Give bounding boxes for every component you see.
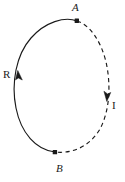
label-point-b: B <box>56 163 63 174</box>
irreversible-path-dashed-arc <box>55 21 109 152</box>
cycle-diagram-svg <box>0 0 125 182</box>
point-marker-b <box>53 150 57 154</box>
point-marker-a <box>75 19 79 23</box>
cycle-diagram-figure: A B R I <box>0 0 125 182</box>
label-point-a: A <box>72 2 79 13</box>
irreversible-path-arrowhead <box>103 91 111 101</box>
label-irreversible-path: I <box>112 100 116 111</box>
reversible-path-solid-arc <box>14 19 77 152</box>
label-reversible-path: R <box>3 69 10 80</box>
